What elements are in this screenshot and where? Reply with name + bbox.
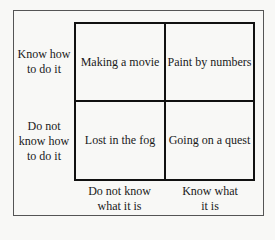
cell-top-right: Paint by numbers <box>166 24 253 100</box>
row-label-line: know how <box>19 134 69 149</box>
row-label-line: Know how <box>18 47 71 62</box>
row-label-line: Do not <box>19 119 69 134</box>
column-label-not-know-what: Do not know what it is <box>74 183 165 215</box>
column-label-line: it is <box>182 199 238 214</box>
column-label-line: Know what <box>182 184 238 199</box>
column-label-line: Do not know <box>88 184 151 199</box>
cell-bottom-left: Lost in the fog <box>76 102 164 179</box>
row-label-know-how: Know how to do it <box>14 22 74 101</box>
row-label-line: to do it <box>19 149 69 164</box>
cell-bottom-right: Going on a quest <box>166 102 253 179</box>
row-label-not-know-how: Do not know how to do it <box>14 101 74 181</box>
column-label-know-what: Know what it is <box>165 183 255 215</box>
row-label-line: to do it <box>18 62 71 77</box>
cell-top-left: Making a movie <box>76 24 164 100</box>
column-label-line: what it is <box>88 199 151 214</box>
